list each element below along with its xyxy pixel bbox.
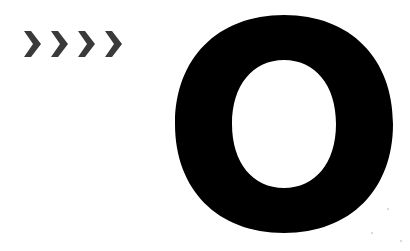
chevron-right-icon [105, 31, 122, 57]
speck [400, 240, 402, 242]
chevron-right-icon [78, 31, 95, 57]
speck [371, 232, 373, 234]
chevron-group [24, 31, 122, 57]
speck [387, 208, 389, 210]
chevron-right-icon [24, 31, 41, 57]
chevron-right-icon [51, 31, 68, 57]
letter-o-glyph: O [175, 15, 393, 233]
